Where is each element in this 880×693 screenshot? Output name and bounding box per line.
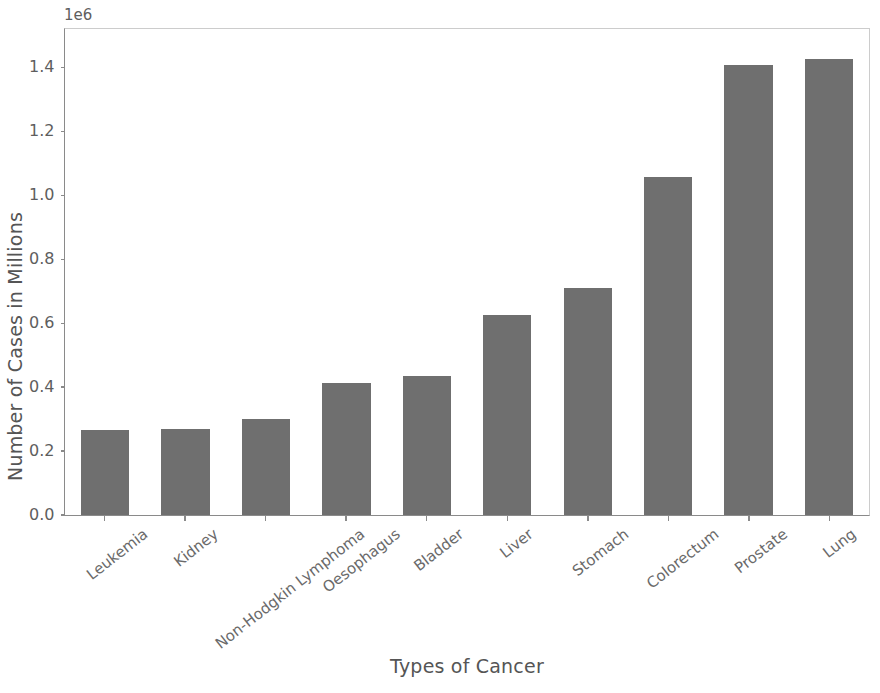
x-tick-label: Lung (819, 525, 859, 562)
bar-bladder (403, 376, 451, 515)
x-tick-label: Colorectum (644, 525, 723, 592)
x-tick-mark (668, 516, 669, 521)
bar-cell (708, 29, 788, 515)
x-tick-mark (265, 516, 266, 521)
y-axis-title: Number of Cases in Millions (0, 0, 30, 693)
y-tick-label: 0.2 (29, 443, 60, 459)
bar-colorectum (644, 177, 692, 515)
y-tick-label: 0.4 (29, 379, 60, 395)
y-tick-label: 1.2 (29, 123, 60, 139)
y-tick-label: 0.6 (29, 315, 60, 331)
y-tick-mark (61, 67, 66, 68)
y-tick-label: 0.0 (29, 507, 60, 523)
bar-prostate (724, 65, 772, 515)
bar-oesophagus (322, 383, 370, 515)
x-axis-title: Types of Cancer (64, 655, 870, 677)
bar-series (65, 29, 869, 515)
x-tick-label: Stomach (569, 525, 632, 580)
bar-cell (387, 29, 467, 515)
bar-cell (145, 29, 225, 515)
y-tick-mark (61, 323, 66, 324)
x-tick-label: Leukemia (84, 525, 152, 584)
bar-cell (467, 29, 547, 515)
x-tick-mark (587, 516, 588, 521)
x-tick-mark (748, 516, 749, 521)
y-tick-mark (61, 195, 66, 196)
x-tick-label: Non-Hodgkin Lymphoma (212, 525, 368, 653)
x-tick-label: Bladder (410, 525, 467, 575)
x-tick-mark (184, 516, 185, 521)
x-tick-label: Liver (497, 525, 537, 562)
y-tick-mark (61, 131, 66, 132)
bar-cell (628, 29, 708, 515)
x-tick-mark (507, 516, 508, 521)
x-tick-label: Prostate (731, 525, 791, 577)
bar-cell (65, 29, 145, 515)
x-tick-mark (426, 516, 427, 521)
bar-liver (483, 315, 531, 515)
y-tick-label: 1.0 (29, 187, 60, 203)
y-tick-label: 1.4 (29, 59, 60, 75)
bar-chart-figure: Number of Cases in Millions 1e6 0.00.20.… (0, 0, 880, 693)
x-tick-label: Kidney (170, 525, 221, 571)
y-axis-offset-label: 1e6 (64, 6, 92, 24)
bar-lung (805, 59, 853, 515)
bar-kidney (161, 429, 209, 515)
x-tick-mark (345, 516, 346, 521)
bar-cell (306, 29, 386, 515)
bar-leukemia (81, 430, 129, 515)
plot-area: 0.00.20.40.60.81.01.21.4 (64, 28, 870, 516)
y-tick-label: 0.8 (29, 251, 60, 267)
y-tick-mark (61, 514, 66, 515)
bar-stomach (564, 288, 612, 515)
x-tick-mark (104, 516, 105, 521)
y-tick-mark (61, 386, 66, 387)
bar-cell (226, 29, 306, 515)
x-tick-mark (829, 516, 830, 521)
y-tick-mark (61, 259, 66, 260)
bar-cell (789, 29, 869, 515)
bar-non-hodgkin-lymphoma (242, 419, 290, 515)
bar-cell (547, 29, 627, 515)
y-tick-mark (61, 450, 66, 451)
